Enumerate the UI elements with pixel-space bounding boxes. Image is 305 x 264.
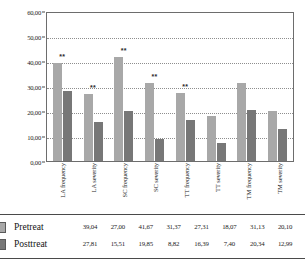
bar-posttreat bbox=[186, 120, 195, 161]
data-table: Pretreat 39,0427,0041,6731,3727,3118,073… bbox=[0, 214, 305, 260]
bar-posttreat bbox=[124, 111, 133, 161]
y-axis-tick-mark bbox=[42, 112, 45, 113]
x-axis-label-cell: TM frequency bbox=[235, 163, 260, 211]
x-axis-label-cell: LA severity bbox=[80, 163, 105, 211]
table-cell: 15,51 bbox=[105, 240, 131, 247]
y-axis-tick-label: 60,00 bbox=[27, 9, 41, 16]
x-axis-label: LA frequency bbox=[58, 163, 65, 198]
table-cell: 31,13 bbox=[244, 223, 270, 230]
legend-swatch-pretreat bbox=[0, 222, 6, 233]
y-axis-tick-mark bbox=[42, 37, 45, 38]
table-cell: 8,82 bbox=[161, 240, 187, 247]
table-cell: 19,85 bbox=[133, 240, 159, 247]
bar-pretreat bbox=[114, 57, 123, 161]
table-row-values-posttreat: 27,8115,5119,858,8216,397,4020,3412,99 bbox=[76, 240, 305, 247]
x-axis-label: TM frequency bbox=[244, 163, 251, 199]
table-row: Pretreat 39,0427,0041,6731,3727,3118,073… bbox=[0, 218, 305, 235]
bar-pretreat bbox=[53, 63, 62, 161]
x-axis-label: SC frequency bbox=[120, 163, 127, 197]
significance-marker: ** bbox=[151, 73, 157, 80]
bar-groups: ********** bbox=[47, 13, 293, 161]
y-axis-tick-label: 40,00 bbox=[27, 59, 41, 66]
table-cell: 18,07 bbox=[216, 223, 242, 230]
table-cell: 20,10 bbox=[272, 223, 298, 230]
bar-posttreat bbox=[278, 129, 287, 161]
y-axis-tick-mark bbox=[42, 87, 45, 88]
plot-area: ********** bbox=[46, 12, 294, 162]
bar-pretreat bbox=[84, 94, 93, 162]
table-cell: 27,81 bbox=[77, 240, 103, 247]
bar-group: ** bbox=[53, 13, 72, 161]
x-axis-label: SC severity bbox=[151, 163, 158, 192]
bar-posttreat bbox=[155, 139, 164, 161]
x-axis-labels: LA frequencyLA severitySC frequencySC se… bbox=[46, 163, 294, 211]
bar-posttreat bbox=[94, 122, 103, 161]
table-cell: 27,31 bbox=[188, 223, 214, 230]
table-rule-top bbox=[0, 214, 305, 215]
bar-posttreat bbox=[247, 110, 256, 161]
significance-marker: ** bbox=[90, 84, 96, 91]
bar-group: ** bbox=[176, 13, 195, 161]
table-cell: 16,39 bbox=[188, 240, 214, 247]
x-axis-label: TT severity bbox=[213, 163, 220, 192]
x-axis-label: TT frequency bbox=[182, 163, 189, 197]
table-rule-bottom bbox=[0, 258, 305, 259]
y-axis-tick-label: 30,00 bbox=[27, 84, 41, 91]
table-row: Posttreat 27,8115,5119,858,8216,397,4020… bbox=[0, 235, 305, 252]
significance-marker: ** bbox=[182, 83, 188, 90]
chart-figure: 0,0010,0020,0030,0040,0050,0060,00 *****… bbox=[0, 0, 305, 264]
table-row-label: Posttreat bbox=[14, 239, 76, 249]
table-row-values-pretreat: 39,0427,0041,6731,3727,3118,0731,1320,10 bbox=[76, 223, 305, 230]
bar-pretreat bbox=[176, 93, 185, 161]
x-axis-label-cell: TM severity bbox=[266, 163, 291, 211]
y-axis: 0,0010,0020,0030,0040,0050,0060,00 bbox=[0, 0, 45, 175]
bar-group bbox=[207, 13, 226, 161]
bar-group: ** bbox=[84, 13, 103, 161]
legend-swatch-pretreat-cell bbox=[0, 218, 14, 235]
y-axis-tick-mark bbox=[42, 137, 45, 138]
table-cell: 7,40 bbox=[216, 240, 242, 247]
table-cell: 20,34 bbox=[244, 240, 270, 247]
bar-group bbox=[268, 13, 287, 161]
y-axis-tick-label: 50,00 bbox=[27, 34, 41, 41]
y-axis-tick-mark bbox=[42, 12, 45, 13]
table-cell: 12,99 bbox=[272, 240, 298, 247]
bar-pretreat bbox=[237, 83, 246, 161]
bar-group bbox=[237, 13, 256, 161]
x-axis-label-cell: TT severity bbox=[204, 163, 229, 211]
x-axis-label: LA severity bbox=[89, 163, 96, 192]
bar-group: ** bbox=[145, 13, 164, 161]
table-cell: 41,67 bbox=[133, 223, 159, 230]
bar-group: ** bbox=[114, 13, 133, 161]
table-cell: 39,04 bbox=[77, 223, 103, 230]
y-axis-tick-label: 0,00 bbox=[30, 159, 41, 166]
bar-pretreat bbox=[145, 83, 154, 161]
bar-chart: 0,0010,0020,0030,0040,0050,0060,00 *****… bbox=[0, 0, 305, 212]
legend-swatch-posttreat-cell bbox=[0, 235, 14, 252]
y-axis-tick-label: 10,00 bbox=[27, 134, 41, 141]
x-axis-label: TM severity bbox=[275, 163, 282, 194]
x-axis-label-cell: SC severity bbox=[142, 163, 167, 211]
table-cell: 31,37 bbox=[161, 223, 187, 230]
bar-pretreat bbox=[207, 116, 216, 161]
significance-marker: ** bbox=[59, 53, 65, 60]
table-cell: 27,00 bbox=[105, 223, 131, 230]
significance-marker: ** bbox=[121, 47, 127, 54]
x-axis-label-cell: TT frequency bbox=[173, 163, 198, 211]
y-axis-tick-mark bbox=[42, 62, 45, 63]
legend-swatch-posttreat bbox=[0, 239, 6, 250]
x-axis-label-cell: SC frequency bbox=[111, 163, 136, 211]
bar-posttreat bbox=[63, 91, 72, 161]
x-axis-label-cell: LA frequency bbox=[49, 163, 74, 211]
bar-pretreat bbox=[268, 111, 277, 161]
bar-posttreat bbox=[217, 143, 226, 162]
y-axis-tick-mark bbox=[42, 162, 45, 163]
table-row-label: Pretreat bbox=[14, 222, 76, 232]
y-axis-tick-label: 20,00 bbox=[27, 109, 41, 116]
